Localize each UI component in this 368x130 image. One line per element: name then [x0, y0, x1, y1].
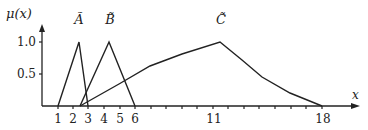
- x-tick-label-6: 6: [131, 112, 139, 126]
- y-axis-arrow-icon: [39, 24, 45, 32]
- series-label-c: C̃: [216, 12, 226, 27]
- x-tick-label-1: 1: [54, 112, 62, 126]
- x-tick-label-11: 11: [206, 112, 221, 126]
- x-tick-label-18: 18: [315, 112, 330, 126]
- series-label-a: Ã: [73, 12, 83, 27]
- y-axis-label: μ(x): [6, 6, 32, 21]
- x-tick-label-2: 2: [69, 112, 77, 126]
- series-a-line: [58, 42, 88, 106]
- fuzzy-membership-chart: 1.0 0.5 1 2 3 4 5 6 11 18 μ(x) x Ã B̃ C̃: [0, 0, 368, 130]
- x-axis-arrow-icon: [351, 103, 360, 109]
- x-tick-label-5: 5: [116, 112, 124, 126]
- x-axis-label: x: [352, 88, 359, 102]
- x-tick-label-3: 3: [84, 112, 92, 126]
- series-c-line: [80, 42, 322, 106]
- x-tick-label-4: 4: [100, 112, 108, 126]
- y-tick-label-1: 1.0: [17, 35, 36, 49]
- y-tick-label-0: 0.5: [17, 67, 36, 81]
- series-label-b: B̃: [104, 12, 115, 27]
- series-b-line: [80, 42, 135, 106]
